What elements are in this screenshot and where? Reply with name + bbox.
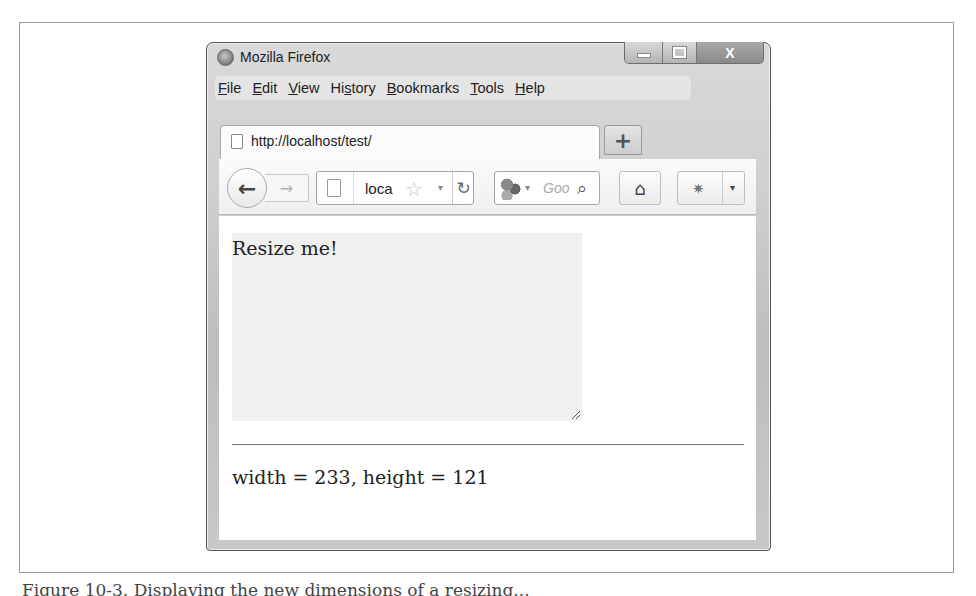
menu-tools[interactable]: Tools	[470, 80, 504, 96]
engine-dropdown-icon[interactable]: ▾	[525, 182, 530, 193]
window-controls: X	[624, 42, 764, 64]
minimize-button[interactable]	[625, 42, 663, 63]
reload-button[interactable]: ↻	[452, 172, 474, 204]
menu-edit[interactable]: Edit	[252, 80, 277, 96]
history-dropdown-icon[interactable]: ▾	[438, 182, 443, 193]
menu-help[interactable]: Help	[515, 80, 545, 96]
window-title: Mozilla Firefox	[240, 49, 330, 65]
url-bar[interactable]: loca ☆ ▾ ↻	[316, 171, 474, 205]
resize-grip-icon[interactable]	[570, 409, 580, 419]
menu-bookmarks[interactable]: Bookmarks	[387, 80, 460, 96]
firefox-logo-icon	[217, 49, 234, 66]
site-identity-icon[interactable]	[327, 179, 341, 197]
addon-divider	[722, 172, 723, 204]
new-tab-button[interactable]: +	[604, 125, 642, 155]
tab-title: http://localhost/test/	[251, 133, 372, 149]
search-icon[interactable]: ⌕	[577, 177, 587, 199]
back-arrow-icon: ←	[238, 176, 256, 201]
dimensions-output: width = 233, height = 121	[232, 466, 489, 488]
search-bar[interactable]: ▾ Goo ⌕	[494, 171, 600, 205]
addon-dropdown-icon[interactable]: ▾	[730, 182, 735, 193]
forward-arrow-icon: →	[280, 179, 293, 198]
horizontal-rule	[232, 444, 744, 445]
title-bar[interactable]: Mozilla Firefox X	[207, 43, 770, 71]
resizable-box[interactable]: Resize me!	[232, 233, 582, 421]
addon-button[interactable]: ✷ ▾	[677, 171, 745, 205]
bookmark-star-icon[interactable]: ☆	[405, 177, 423, 201]
menu-bar: File Edit View History Bookmarks Tools H…	[215, 76, 691, 100]
back-button[interactable]: ←	[227, 168, 267, 208]
figure-caption: Figure 10-3. Displaying the new dimensio…	[22, 580, 530, 596]
navigation-toolbar: → ← loca ☆ ▾ ↻ ▾ Goo ⌕ ⌂ ✷ ▾	[219, 159, 756, 215]
search-input[interactable]: Goo	[543, 180, 569, 196]
maximize-icon	[673, 47, 686, 58]
menu-file[interactable]: File	[218, 80, 241, 96]
resizable-text: Resize me!	[232, 237, 338, 259]
addon-icon: ✷	[692, 180, 705, 198]
close-button[interactable]: X	[697, 42, 763, 63]
browser-window: Mozilla Firefox X File Edit View History…	[206, 42, 771, 551]
forward-button[interactable]: →	[265, 174, 309, 202]
search-engine-icon[interactable]	[501, 178, 521, 200]
reload-icon: ↻	[456, 178, 470, 198]
page-icon	[231, 134, 243, 149]
home-icon: ⌂	[634, 178, 645, 199]
menu-view[interactable]: View	[288, 80, 319, 96]
home-button[interactable]: ⌂	[619, 171, 661, 205]
tab-active[interactable]: http://localhost/test/	[220, 125, 600, 159]
url-divider	[353, 172, 354, 204]
page-content: Resize me! width = 233, height = 121	[219, 216, 756, 540]
maximize-button[interactable]	[663, 42, 697, 63]
url-input[interactable]: loca	[365, 180, 393, 197]
menu-history[interactable]: History	[331, 80, 376, 96]
plus-icon: +	[614, 128, 632, 153]
close-icon: X	[725, 45, 734, 61]
minimize-icon	[637, 53, 651, 58]
